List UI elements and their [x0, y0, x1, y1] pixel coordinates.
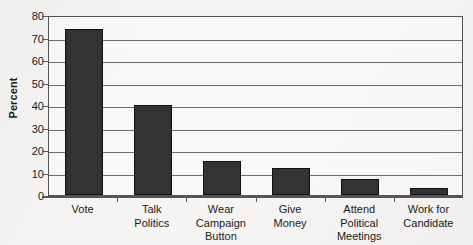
y-tick-label: 70 — [20, 33, 44, 45]
x-category-label-line: Talk — [117, 203, 186, 217]
y-tick-label: 30 — [20, 123, 44, 135]
bar — [134, 105, 172, 195]
y-tick-mark — [42, 196, 48, 197]
y-tick-mark — [42, 16, 48, 17]
y-tick-label: 40 — [20, 100, 44, 112]
x-category-label: Work forCandidate — [394, 203, 463, 230]
x-category-label-line: Button — [186, 230, 255, 244]
y-tick-mark — [42, 151, 48, 152]
x-category-label-line: Attend — [325, 203, 394, 217]
x-category-label-line: Campaign — [186, 217, 255, 231]
y-tick-label: 80 — [20, 10, 44, 22]
x-category-label: GiveMoney — [256, 203, 325, 230]
x-category-label-line: Vote — [48, 203, 117, 217]
x-category-label-line: Meetings — [325, 230, 394, 244]
x-axis-line — [42, 196, 463, 198]
x-axis-category-labels: VoteTalkPoliticsWearCampaignButtonGiveMo… — [48, 203, 463, 245]
x-category-label-line: Political — [325, 217, 394, 231]
x-category-label: TalkPolitics — [117, 203, 186, 230]
x-category-label-line: Work for — [394, 203, 463, 217]
x-tick-mark — [117, 196, 118, 202]
y-tick-mark — [42, 129, 48, 130]
x-category-label-line: Politics — [117, 217, 186, 231]
y-tick-label: 0 — [20, 190, 44, 202]
bar — [272, 168, 310, 195]
x-category-label: WearCampaignButton — [186, 203, 255, 244]
x-tick-mark — [325, 196, 326, 202]
x-tick-mark — [394, 196, 395, 202]
y-tick-mark — [42, 39, 48, 40]
bar — [203, 161, 241, 195]
y-tick-mark — [42, 174, 48, 175]
x-category-label: Vote — [48, 203, 117, 217]
bar — [65, 29, 103, 196]
y-tick-label: 50 — [20, 78, 44, 90]
x-tick-mark — [256, 196, 257, 202]
y-axis-tick-labels: 01020304050607080 — [20, 0, 44, 245]
y-tick-mark — [42, 61, 48, 62]
y-tick-label: 20 — [20, 145, 44, 157]
y-tick-mark — [42, 84, 48, 85]
bar — [341, 179, 379, 195]
x-category-label-line: Wear — [186, 203, 255, 217]
bar — [410, 188, 448, 195]
bars-group — [49, 17, 462, 195]
y-tick-label: 10 — [20, 168, 44, 180]
bar-chart: Percent 01020304050607080 VoteTalkPoliti… — [0, 0, 473, 245]
x-category-label: AttendPoliticalMeetings — [325, 203, 394, 244]
y-axis-title-text: Percent — [7, 77, 19, 118]
x-category-label-line: Candidate — [394, 217, 463, 231]
plot-area — [48, 16, 463, 196]
x-category-label-line: Money — [256, 217, 325, 231]
x-category-label-line: Give — [256, 203, 325, 217]
x-tick-mark — [186, 196, 187, 202]
y-tick-mark — [42, 106, 48, 107]
y-tick-label: 60 — [20, 55, 44, 67]
